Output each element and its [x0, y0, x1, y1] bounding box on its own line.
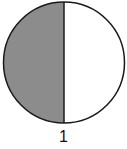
fraction-circle: [0, 0, 127, 149]
figure-label: 1: [0, 128, 127, 146]
unshaded-half: [64, 2, 124, 123]
shaded-half: [4, 2, 64, 123]
